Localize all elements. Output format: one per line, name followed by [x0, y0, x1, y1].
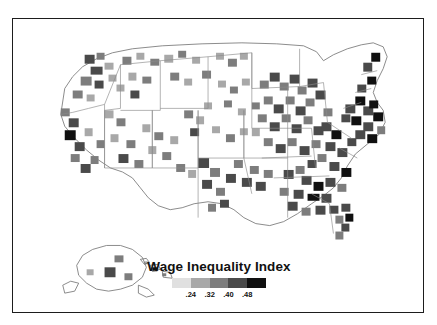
legend-title: Wage Inequality Index: [113, 259, 325, 274]
legend-tick-2: .40: [223, 290, 233, 299]
artifact-text: · · · · ·: [14, 0, 36, 2]
legend-tick-0: .24: [186, 290, 196, 299]
legend-tick-1: .32: [204, 290, 214, 299]
legend-swatch-2: [191, 278, 210, 288]
legend-swatch-3: [210, 278, 229, 288]
legend-swatch-4: [228, 278, 247, 288]
map-legend: Wage Inequality Index .24 .32 .40 .48: [113, 259, 325, 302]
legend-tick-3: .48: [242, 290, 252, 299]
state-boundaries: [61, 49, 377, 234]
cropped-caption-artifact: · · · · ·: [0, 0, 437, 9]
legend-swatch-1: [172, 278, 191, 288]
legend-tick-labels: .24 .32 .40 .48: [172, 290, 266, 302]
legend-swatch-5: [247, 278, 266, 288]
legend-color-ramp: [172, 278, 266, 288]
figure-frame: .c0{fill:#ffffff} .c1{fill:#e0e0e0} .c2{…: [12, 18, 424, 313]
